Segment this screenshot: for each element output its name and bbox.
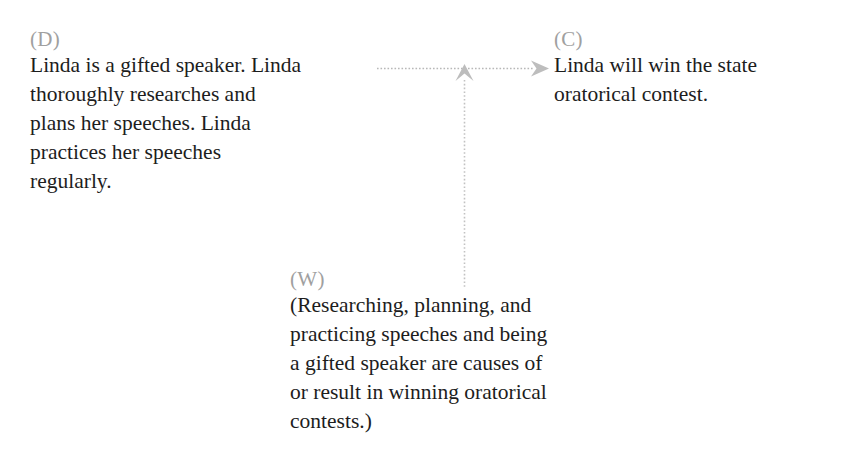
warrant-node-text: (Researching, planning, and practicing s… (290, 291, 640, 436)
data-to-claim-arrowhead (531, 61, 549, 77)
toulmin-diagram: (D) Linda is a gifted speaker. Linda tho… (0, 0, 841, 451)
data-node-text: Linda is a gifted speaker. Linda thoroug… (30, 51, 380, 196)
warrant-node-label: (W) (290, 267, 640, 291)
claim-node-text: Linda will win the state oratorical cont… (554, 51, 830, 109)
claim-node-label: (C) (554, 27, 830, 51)
data-node-label: (D) (30, 27, 380, 51)
claim-node: (C) Linda will win the state oratorical … (554, 27, 830, 109)
warrant-node: (W) (Researching, planning, and practici… (290, 267, 640, 436)
data-node: (D) Linda is a gifted speaker. Linda tho… (30, 27, 380, 196)
warrant-to-link-arrowhead (456, 64, 474, 81)
